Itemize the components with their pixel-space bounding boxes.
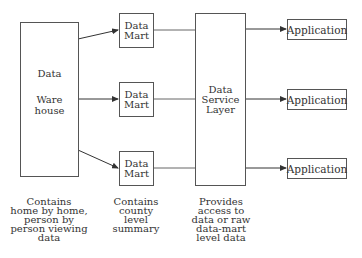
service-layer-caption: Provides access to data or raw data-mart… bbox=[188, 197, 254, 242]
application-label: Application bbox=[287, 164, 348, 174]
data-mart-label-line1: Data bbox=[125, 90, 149, 100]
application-label: Application bbox=[287, 95, 348, 105]
application-box-3: Application bbox=[287, 158, 347, 179]
data-service-layer-box: Data Service Layer bbox=[195, 13, 246, 186]
service-layer-label-line3: Layer bbox=[206, 105, 235, 115]
data-mart-label-line2: Mart bbox=[124, 31, 149, 41]
data-mart-box-1: Data Mart bbox=[119, 13, 154, 48]
application-label: Application bbox=[287, 25, 348, 35]
warehouse-label-line3: house bbox=[35, 106, 65, 116]
application-box-2: Application bbox=[287, 89, 347, 110]
warehouse-caption: Contains home by home, person by person … bbox=[4, 197, 94, 242]
data-mart-label-line2: Mart bbox=[124, 100, 149, 110]
data-warehouse-box: Data Ware house bbox=[20, 22, 79, 177]
warehouse-label-line1: Data bbox=[38, 69, 62, 79]
arrow-warehouse-to-mart-1 bbox=[78, 30, 118, 39]
data-mart-box-3: Data Mart bbox=[119, 151, 154, 186]
data-mart-box-2: Data Mart bbox=[119, 82, 154, 117]
arrow-warehouse-to-mart-3 bbox=[78, 150, 118, 168]
data-mart-caption: Contains county level summary bbox=[106, 197, 166, 233]
application-box-1: Application bbox=[287, 19, 347, 40]
data-mart-label-line2: Mart bbox=[124, 169, 149, 179]
data-mart-label-line1: Data bbox=[125, 21, 149, 31]
warehouse-label-line2: Ware bbox=[36, 95, 62, 105]
service-layer-label-line1: Data bbox=[209, 85, 233, 95]
data-mart-label-line1: Data bbox=[125, 159, 149, 169]
service-layer-label-line2: Service bbox=[202, 95, 240, 105]
